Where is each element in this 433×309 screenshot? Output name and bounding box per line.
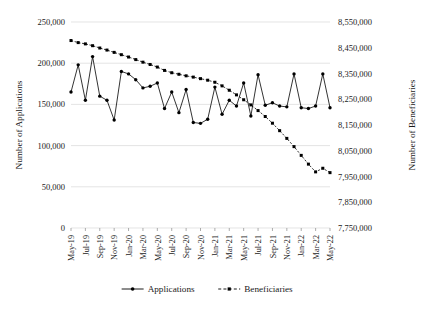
x-axis-tick-label: Mar-20: [139, 235, 148, 259]
y-axis-left-tick-label: 0: [61, 223, 65, 233]
data-point-marker: [220, 113, 223, 116]
data-point-marker: [127, 56, 130, 59]
data-point-marker: [264, 104, 267, 107]
y-axis-left-tick-label: 250,000: [37, 17, 65, 27]
data-point-marker: [149, 63, 152, 66]
data-point-marker: [134, 78, 137, 81]
data-point-marker: [213, 81, 216, 84]
data-point-marker: [91, 44, 94, 47]
y-axis-right-tick-label: 7,950,000: [338, 172, 372, 182]
data-point-marker: [77, 41, 80, 44]
y-axis-right-tick-label: 7,850,000: [338, 197, 372, 207]
data-point-marker: [235, 104, 238, 107]
y-axis-right-tick-labels: 7,750,0007,850,0007,950,0008,050,0008,15…: [338, 17, 372, 233]
chart-container: 050,000100,000150,000200,000250,000 7,75…: [0, 0, 433, 309]
data-point-marker: [76, 63, 79, 66]
x-axis-tick-labels: May-19Jul-19Sep-19Nov-19Jan-20Mar-20May-…: [67, 228, 335, 261]
data-point-marker: [278, 129, 281, 132]
y-axis-right-tick-label: 8,550,000: [338, 17, 372, 27]
data-point-marker: [213, 85, 216, 88]
data-point-marker: [163, 107, 166, 110]
y-axis-left-tick-label: 100,000: [37, 141, 65, 151]
data-point-marker: [98, 94, 101, 97]
data-point-marker: [120, 53, 123, 56]
legend-label-beneficiaries: Beneficiaries: [244, 284, 293, 294]
x-axis-tick-label: Jul-19: [82, 235, 91, 255]
data-point-marker: [120, 70, 123, 73]
data-point-marker: [177, 73, 180, 76]
y-axis-left-title: Number of Applications: [14, 80, 24, 169]
data-point-marker: [271, 122, 274, 125]
x-axis-tick-label: Jul-21: [254, 235, 263, 255]
data-point-marker: [199, 77, 202, 80]
x-axis-tick-label: May-20: [154, 235, 163, 261]
x-axis-tick-label: Nov-19: [110, 235, 119, 260]
data-point-marker: [293, 145, 296, 148]
x-axis-tick-label: Jul-20: [168, 235, 177, 255]
data-point-marker: [156, 81, 159, 84]
data-point-marker: [84, 99, 87, 102]
data-point-marker: [113, 51, 116, 54]
y-axis-right-title: Number of Beneficiaries: [407, 79, 417, 170]
series-line-applications: [71, 57, 330, 124]
data-point-marker: [242, 81, 245, 84]
data-point-marker: [328, 106, 331, 109]
x-axis-tick-label: May-19: [67, 235, 76, 261]
data-point-marker: [141, 86, 144, 89]
data-point-marker: [257, 109, 260, 112]
data-point-marker: [170, 71, 173, 74]
data-point-marker: [156, 66, 159, 69]
data-point-marker: [235, 93, 238, 96]
data-point-marker: [292, 72, 295, 75]
data-point-marker: [249, 103, 252, 106]
data-point-marker: [112, 118, 115, 121]
data-point-marker: [314, 104, 317, 107]
y-axis-left-tick-label: 150,000: [37, 99, 65, 109]
x-axis-tick-label: May-21: [240, 235, 249, 261]
data-point-marker: [98, 47, 101, 50]
x-axis-tick-label: Nov-21: [283, 235, 292, 260]
x-axis-tick-label: Jan-20: [125, 235, 134, 257]
data-point-marker: [285, 105, 288, 108]
x-axis-tick-label: Mar-21: [225, 235, 234, 259]
data-series: [69, 39, 331, 174]
data-point-marker: [307, 163, 310, 166]
y-axis-right-tick-label: 7,750,000: [338, 223, 372, 233]
data-point-marker: [70, 39, 73, 42]
data-point-marker: [228, 89, 231, 92]
legend-marker: [228, 287, 231, 290]
data-point-marker: [148, 85, 151, 88]
data-point-marker: [228, 99, 231, 102]
data-point-marker: [84, 42, 87, 45]
data-point-marker: [163, 69, 166, 72]
data-point-marker: [264, 115, 267, 118]
data-point-marker: [192, 76, 195, 79]
data-point-marker: [221, 84, 224, 87]
data-point-marker: [105, 99, 108, 102]
data-point-marker: [256, 73, 259, 76]
data-point-marker: [192, 121, 195, 124]
data-point-marker: [177, 111, 180, 114]
x-axis-tick-label: May-22: [326, 235, 335, 261]
legend-marker: [131, 287, 135, 291]
data-point-marker: [199, 122, 202, 125]
data-point-marker: [141, 61, 144, 64]
series-line-beneficiaries: [71, 41, 330, 173]
data-point-marker: [300, 154, 303, 157]
data-point-marker: [307, 107, 310, 110]
x-axis-tick-label: Sep-21: [269, 235, 278, 258]
data-point-marker: [105, 49, 108, 52]
data-point-marker: [185, 74, 188, 77]
chart-legend: ApplicationsBeneficiaries: [122, 284, 293, 294]
x-axis-tick-label: Jan-22: [297, 235, 306, 257]
data-point-marker: [206, 79, 209, 82]
data-point-marker: [69, 90, 72, 93]
data-point-marker: [127, 72, 130, 75]
data-point-marker: [184, 88, 187, 91]
data-point-marker: [285, 137, 288, 140]
data-point-marker: [249, 114, 252, 117]
y-axis-right-tick-label: 8,250,000: [338, 94, 372, 104]
data-point-marker: [314, 170, 317, 173]
data-point-marker: [329, 171, 332, 174]
data-point-marker: [300, 106, 303, 109]
